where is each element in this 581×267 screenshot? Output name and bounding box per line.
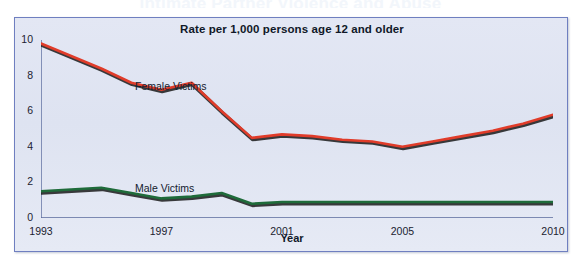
y-tick-label: 2 <box>13 175 33 187</box>
series-label-male: Male Victims <box>135 182 194 194</box>
plot-area <box>41 40 553 218</box>
series-label-female: Female Victims <box>135 80 207 92</box>
series-line-male <box>41 188 553 204</box>
chart-panel: Rate per 1,000 persons age 12 and older … <box>14 17 568 252</box>
page-heading: Intimate Partner Violence and Abuse <box>0 0 581 8</box>
chart-title: Rate per 1,000 persons age 12 and older <box>15 23 569 35</box>
y-tick-label: 0 <box>13 211 33 223</box>
line-chart-svg <box>41 40 553 218</box>
y-tick-label: 6 <box>13 104 33 116</box>
series-line-female <box>41 44 553 147</box>
y-tick-label: 4 <box>13 140 33 152</box>
x-axis-title: Year <box>15 232 569 244</box>
y-tick-label: 8 <box>13 69 33 81</box>
y-tick-label: 10 <box>13 33 33 45</box>
